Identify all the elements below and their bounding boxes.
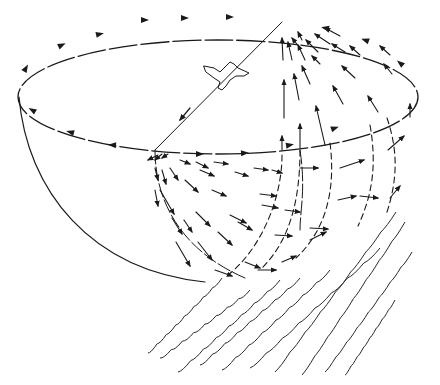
field-arrow (388, 136, 404, 150)
field-arrow (368, 96, 378, 112)
field-arrow (380, 46, 390, 55)
field-arrow (294, 74, 299, 100)
rim-arrowhead (108, 142, 116, 149)
field-arrow (285, 210, 300, 212)
solid-flow-curves (155, 150, 303, 278)
field-arrow (176, 242, 190, 266)
rim-arrowhead (21, 63, 30, 73)
field-arrow (288, 42, 292, 60)
field-arrow (292, 38, 300, 48)
field-arrow (160, 190, 174, 214)
field-arrow (185, 180, 198, 192)
rim-arrowhead (360, 36, 370, 44)
bird-icon (204, 62, 249, 90)
rim-arrowhead (330, 124, 340, 132)
field-arrow (260, 194, 276, 196)
field-arrow (196, 162, 208, 168)
hemisphere-vector-field-diagram (0, 0, 440, 385)
field-arrow (218, 232, 232, 245)
field-arrow (333, 86, 343, 104)
meridian-line (358, 125, 373, 226)
field-arrow (310, 232, 326, 240)
axis-arrow (180, 108, 190, 120)
field-arrow (312, 56, 320, 64)
field-arrow (342, 66, 355, 78)
rim-arrowhead (27, 105, 37, 114)
field-arrow (282, 38, 283, 60)
field-arrow (184, 220, 192, 232)
wave-line (275, 212, 396, 372)
diagram-canvas (0, 0, 440, 385)
flow-curve (300, 150, 303, 230)
meridian-line (228, 155, 282, 275)
field-arrow (196, 212, 210, 226)
rim-arrowhead (241, 150, 249, 157)
field-arrow (180, 160, 190, 164)
field-arrow (275, 235, 292, 236)
flow-curve (155, 150, 245, 278)
field-arrow (282, 256, 296, 262)
field-arrow (245, 262, 260, 268)
rim-direction-arrows (21, 14, 405, 157)
field-arrow (155, 190, 158, 206)
rim-arrowhead (226, 14, 234, 20)
field-arrow (338, 196, 356, 200)
field-arrow (262, 205, 278, 208)
field-arrow (340, 160, 364, 168)
rim-arrowhead (286, 141, 295, 148)
rim-ellipse (18, 40, 418, 154)
field-arrow (384, 64, 392, 74)
wave-line (148, 278, 222, 353)
dashed-meridians (228, 118, 395, 275)
rim-ellipse-path (18, 40, 418, 154)
field-arrow (198, 242, 212, 260)
wave-line (178, 280, 280, 372)
field-arrow (254, 168, 268, 170)
field-arrow (214, 162, 228, 164)
wave-line (160, 290, 250, 358)
hemisphere-bowl (19, 97, 205, 282)
field-arrow (212, 190, 226, 196)
field-arrow (316, 106, 325, 145)
field-arrow (238, 222, 252, 230)
field-arrow (390, 186, 400, 198)
field-arrow (302, 66, 310, 84)
wave-line (250, 248, 380, 368)
bird-silhouette (204, 62, 249, 90)
field-arrow (298, 32, 302, 40)
field-arrow (315, 34, 330, 44)
rim-arrowhead (321, 24, 330, 31)
wave-line (200, 278, 300, 365)
bowl-outline (19, 97, 205, 282)
field-arrow (162, 154, 168, 158)
field-arrow (200, 170, 214, 176)
rim-arrowhead (141, 17, 149, 23)
field-arrow (235, 172, 248, 176)
wave-line (325, 252, 412, 372)
wave-line (302, 222, 405, 375)
field-arrow (350, 46, 360, 55)
rim-arrowhead (395, 58, 405, 68)
field-arrow (272, 170, 282, 173)
rim-arrowhead (57, 41, 67, 50)
field-arrow (310, 228, 328, 229)
field-arrow (162, 170, 166, 184)
wavy-ground-lines (148, 212, 412, 375)
field-arrow (170, 168, 178, 180)
rim-arrowhead (196, 151, 204, 157)
field-arrow (172, 218, 182, 234)
rim-arrowhead (95, 30, 104, 38)
meridian-line (386, 118, 395, 215)
rim-arrowhead (181, 15, 189, 21)
